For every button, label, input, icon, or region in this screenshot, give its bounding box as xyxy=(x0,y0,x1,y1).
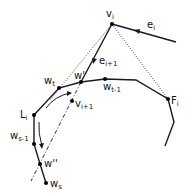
label-e-i-plus-1: ei+1 xyxy=(99,55,117,68)
vertex-v-i-1 xyxy=(70,99,74,103)
label-w-t-1: wt-1 xyxy=(103,81,121,94)
label-v-i-plus-1: vi+1 xyxy=(75,98,93,111)
vertex-w-s xyxy=(44,181,48,185)
label-v-i: vi xyxy=(106,8,114,21)
edge-e-i-plus-1 xyxy=(81,24,112,82)
vertex-w-s-1 xyxy=(32,142,36,146)
curved-arrow-lower-icon xyxy=(39,122,42,146)
vertex-w-dprime xyxy=(38,162,42,166)
label-w-prime: w' xyxy=(74,70,85,81)
label-F-i: Fi xyxy=(171,95,179,108)
arrow-e-i-plus-1-icon xyxy=(92,58,97,64)
polygon-diagram: vi ei ei+1 wt w' wt-1 vi+1 Li Fi ws-1 w'… xyxy=(0,0,191,196)
label-w-t: wt xyxy=(44,75,55,88)
curved-arrow-upper-icon xyxy=(46,93,70,108)
label-e-i: ei xyxy=(147,19,155,32)
vertex-w-t xyxy=(57,86,61,90)
vertex-F-i xyxy=(166,97,170,101)
vertex-v-i xyxy=(110,22,114,26)
label-w-s: ws xyxy=(50,178,62,191)
label-L-i: Li xyxy=(20,109,28,122)
edge-e-i xyxy=(112,24,176,42)
vertex-L-i xyxy=(32,113,36,117)
chain-lower xyxy=(34,115,46,183)
label-w-s-1: ws-1 xyxy=(10,130,29,143)
label-w-dprime: w'' xyxy=(44,158,58,169)
